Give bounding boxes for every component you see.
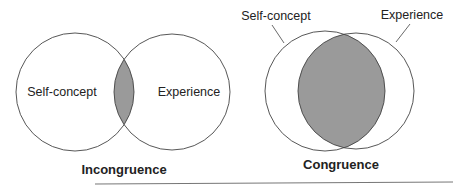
experience-label: Experience (158, 85, 221, 99)
experience-leader-line (396, 24, 410, 42)
congruence-overlap-region (298, 33, 414, 149)
self-concept-leader-line (272, 25, 284, 43)
congruence-diagram: Self-concept Experience Congruence (241, 8, 443, 172)
self-concept-label: Self-concept (27, 85, 97, 99)
venn-comparison-figure: Self-concept Experience Incongruence Sel… (0, 0, 453, 190)
figure-svg: Self-concept Experience Incongruence Sel… (0, 0, 453, 190)
incongruence-diagram: Self-concept Experience Incongruence (16, 33, 230, 177)
bottom-rule-divider (95, 182, 453, 184)
self-concept-label: Self-concept (241, 9, 311, 23)
congruence-caption: Congruence (303, 157, 379, 172)
experience-label: Experience (381, 8, 444, 22)
incongruence-caption: Incongruence (81, 162, 166, 177)
